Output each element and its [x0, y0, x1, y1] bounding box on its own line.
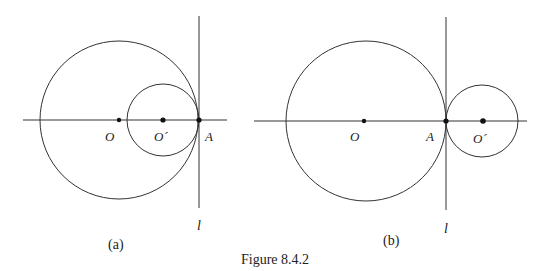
label-a-a: A [204, 129, 213, 144]
label-o-prime-b: O´ [473, 131, 487, 146]
label-o-prime-a: O´ [154, 129, 168, 144]
figure-caption: Figure 8.4.2 [241, 252, 309, 267]
point-o-a [117, 118, 121, 122]
figure-canvas: O O´ A l (a) O A O´ l (b) Figure 8.4.2 [0, 0, 543, 271]
label-l-b: l [444, 221, 448, 236]
panel-label-b: (b) [383, 233, 400, 249]
label-a-b: A [425, 129, 434, 144]
point-a-b [443, 118, 448, 123]
label-o-a: O [105, 129, 115, 144]
panel-a [23, 16, 227, 208]
panel-label-a: (a) [108, 237, 124, 253]
point-o-prime-b [480, 118, 486, 124]
point-o-prime-a [160, 117, 165, 122]
label-l-a: l [197, 218, 201, 233]
point-a-a [196, 117, 201, 122]
label-o-b: O [350, 129, 360, 144]
panel-b [254, 17, 527, 210]
point-o-b [362, 119, 366, 123]
